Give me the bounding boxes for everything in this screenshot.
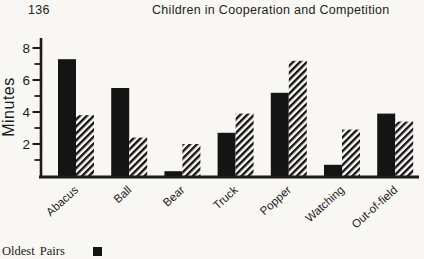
bar-bear-hatched — [182, 144, 200, 176]
bar-watching-solid — [324, 165, 342, 176]
bar-watching-hatched — [342, 130, 360, 176]
x-category-label-bear: Bear — [161, 183, 187, 208]
bar-ball-hatched — [129, 138, 147, 176]
bar-out-of-field-hatched — [395, 122, 413, 176]
y-axis-title: Minutes — [0, 77, 17, 137]
chart-layers: 2468MinutesAbacusBallBearTruckPopperWatc… — [0, 38, 419, 231]
bar-popper-hatched — [289, 61, 307, 176]
legend-swatch-solid-black-icon — [93, 247, 102, 256]
y-tick-label-2: 2 — [22, 137, 30, 152]
x-category-label-out-of-field: Out-of-field — [349, 184, 399, 231]
x-category-label-ball: Ball — [111, 184, 133, 206]
x-category-label-truck: Truck — [211, 183, 240, 211]
y-tick-label-6: 6 — [22, 73, 30, 88]
x-category-label-watching: Watching — [303, 184, 346, 225]
x-category-label-popper: Popper — [258, 183, 294, 217]
bar-popper-solid — [271, 93, 289, 176]
bar-bear-solid — [164, 171, 182, 176]
bar-abacus-hatched — [76, 115, 94, 176]
bar-truck-solid — [218, 133, 236, 176]
bar-abacus-solid — [58, 59, 76, 176]
bar-chart: 2468MinutesAbacusBallBearTruckPopperWatc… — [0, 0, 424, 242]
legend-label-oldest-pairs: Oldest Pairs — [2, 244, 65, 259]
x-category-label-abacus: Abacus — [44, 183, 81, 218]
chart-legend: Oldest Pairs — [2, 244, 422, 259]
bar-ball-solid — [111, 88, 129, 176]
y-tick-label-8: 8 — [22, 41, 30, 56]
bar-truck-hatched — [236, 114, 254, 176]
bar-out-of-field-solid — [377, 114, 395, 176]
y-tick-label-4: 4 — [22, 105, 30, 120]
book-page: 136 Children in Cooperation and Competit… — [0, 0, 424, 259]
